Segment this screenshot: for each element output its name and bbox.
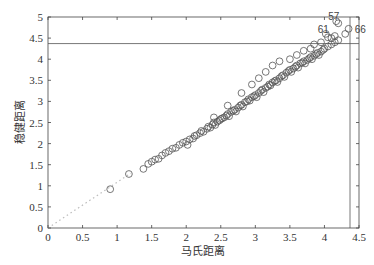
x-axis-title: 马氏距离 [181,244,225,258]
y-tick-label: 0.5 [29,201,43,213]
x-tick-label: 2 [183,231,189,243]
y-axis-title: 稳健距离 [13,100,27,144]
point-label: 66 [355,24,367,35]
y-tick-label: 4 [38,53,44,65]
y-tick-label: 3.5 [29,74,43,86]
x-tick-label: 1 [114,231,120,243]
y-tick-label: 2 [38,138,44,150]
y-tick-label: 0 [38,222,44,234]
y-tick-label: 4.5 [29,32,43,44]
x-tick-label: 3 [253,231,259,243]
x-tick-label: 3.5 [283,231,297,243]
x-tick-label: 1.5 [145,231,159,243]
x-tick-label: 0 [45,231,51,243]
point-label: 61 [318,24,330,35]
scatter-chart: 576166 00.511.522.533.544.5 00.511.522.5… [0,0,374,265]
plot-area [48,17,359,228]
y-tick-label: 5 [38,11,44,23]
x-tick-label: 4.5 [352,231,366,243]
x-tick-label: 4 [322,231,328,243]
x-tick-label: 0.5 [76,231,90,243]
point-label: 57 [328,11,340,22]
y-tick-label: 2.5 [29,117,43,129]
x-tick-label: 2.5 [214,231,228,243]
y-tick-label: 1.5 [29,159,43,171]
y-tick-label: 3 [38,95,44,107]
y-tick-label: 1 [38,180,44,192]
